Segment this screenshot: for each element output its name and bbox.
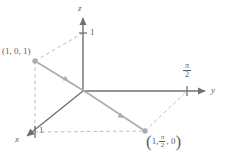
coord-first-component: 1, <box>152 137 159 146</box>
y-tick-denominator: 2 <box>185 71 189 79</box>
dashed-point-to-y-tick <box>145 91 187 131</box>
axes-group <box>27 18 205 136</box>
coord-body: 1, π 2 , 0 <box>152 134 176 149</box>
curve-segment-upper <box>35 61 89 94</box>
y-tick-label-pi-over-2: π 2 <box>183 62 191 79</box>
dashed-x-tick-to-point <box>35 131 145 132</box>
point-label-1-0-1: (1, 0, 1) <box>2 47 31 56</box>
point-marker-1-0-1[interactable] <box>32 58 37 63</box>
curve-group <box>35 61 145 131</box>
y-axis-label: y <box>211 86 215 95</box>
projection-lines <box>35 33 187 132</box>
coord-last-component: , 0 <box>166 137 175 146</box>
y-tick-numerator: π <box>185 62 189 70</box>
dashed-point-to-z-tick <box>35 33 83 61</box>
tick-marks <box>35 33 187 138</box>
z-axis-label: z <box>78 4 82 13</box>
z-tick-label-1: 1 <box>90 28 95 37</box>
x-tick-label-1: 1 <box>39 126 44 135</box>
diagram-canvas <box>0 0 225 160</box>
x-axis-label: x <box>15 135 19 144</box>
curve-segment-lower <box>89 94 145 131</box>
coord-fraction-denominator: 2 <box>160 142 166 149</box>
coord-fraction-numerator: π <box>160 134 166 141</box>
point-label-1-pi2-0: ( 1, π 2 , 0 ) <box>146 134 181 149</box>
coordinate-diagram: z y x 1 1 π 2 (1, 0, 1) ( 1, π 2 , 0 ) <box>0 0 225 160</box>
coord-fraction: π 2 <box>159 134 165 149</box>
